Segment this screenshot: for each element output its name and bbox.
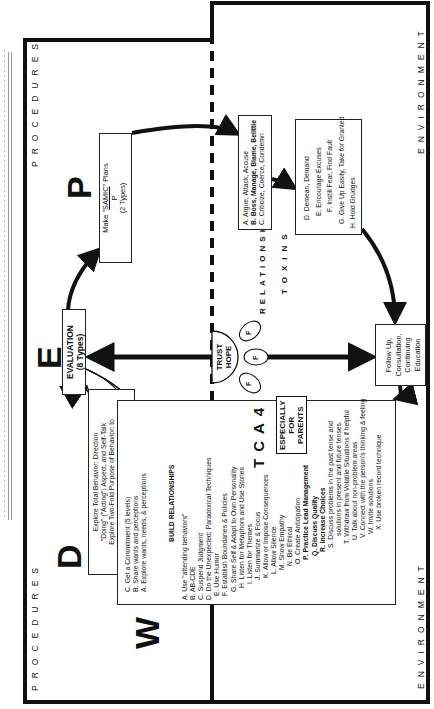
toxin-a: A. Argue, Attack, Accuse (242, 120, 250, 225)
toxins-box-1: A. Argue, Attack, Accuse B. Boss, Manage… (238, 115, 272, 230)
rel-item-b: B. AB-CDE (189, 399, 197, 600)
act-number-4: 4 (250, 408, 267, 416)
parents-line-2: FOR (287, 401, 296, 451)
rel-item-r: R. Increase Choices (319, 399, 327, 600)
parents-line-3: PARENTS (296, 401, 305, 451)
plans-line3: (2 Types) (119, 134, 128, 262)
followup-line-4: Education (413, 325, 423, 385)
evaluation-subtitle: (8 Types) (75, 310, 85, 394)
especially-for-parents-badge: ESPECIALLY FOR PARENTS (276, 397, 307, 455)
rel-item-v: V. Connect with the person's thinking & … (359, 399, 367, 600)
direction-line-1: Explore Total Behavior: Direction (92, 390, 100, 574)
procedures-label-top: PROCEDURES (30, 37, 40, 167)
toxin-h: H. Hold Grudges (347, 124, 359, 230)
wants-box: C. Get a Commitment (5 levels) B. Share … (117, 400, 396, 605)
rel-item-w: W. Invite solutions (367, 399, 375, 600)
environment-label-bottom: ENVIRONMENT (416, 560, 426, 689)
act-letter-t: T (250, 459, 267, 468)
letter-e: E (32, 346, 66, 369)
rel-item-g: G. Share Self & Adapt to Own Personality (230, 399, 238, 600)
wants-item-b: B. Share wants and perceptions (132, 473, 140, 592)
wants-item-a: A. Explore wants, needs, & perceptions (140, 473, 148, 592)
petal-f-1: F (245, 331, 252, 335)
toxin-b: B. Boss, Manage, Blame, Belittle (250, 120, 258, 225)
rel-item-q: Q. Discuss Quality (311, 399, 319, 600)
toxin-d: D. Demean, Demand (301, 124, 313, 230)
letter-p: P (62, 176, 96, 199)
wants-item-c: C. Get a Commitment (5 levels) (124, 473, 132, 592)
petal-f-2: F (252, 356, 259, 360)
procedures-text-2: PROCEDURES (30, 561, 40, 691)
rel-item-a: A. Use "attending behaviors" (181, 399, 189, 600)
letter-d: D (52, 544, 86, 569)
parents-line-1: ESPECIALLY (278, 401, 287, 451)
rel-item-d: D. Do the Unexpected; Paradoxical Techni… (205, 399, 213, 600)
rel-item-s: S. Discuss problems in the past tense an… (327, 399, 335, 600)
followup-line-3: Continuing (403, 325, 413, 385)
followup-line-2: Consultation, (394, 325, 404, 385)
rel-item-x: X. Use broken record technique (375, 399, 383, 600)
rel-item-f: F. Establish Boundaries & Policies (221, 399, 229, 600)
direction-line-3: Explore Two-Fold Purpose of Behavior: to (108, 390, 116, 574)
wants-top-list: C. Get a Commitment (5 levels) B. Share … (124, 473, 148, 592)
toxin-f: F. Instill Fear, Find Fault (324, 124, 336, 230)
evaluation-title: EVALUATION (65, 310, 75, 394)
letter-w: W (130, 617, 164, 649)
build-relationships-label: BUILD RELATIONSHIPS (168, 463, 176, 544)
procedures-label-bottom: PROCEDURES (30, 561, 40, 691)
four-act-badge: T C A 4 (250, 408, 267, 468)
hope-text: HOPE (225, 338, 234, 376)
rel-item-e: E. Use Humor (213, 399, 221, 600)
plans-box: Make "SAMIC" Plans P (2 Types) (99, 133, 132, 263)
toxin-c: C. Criticize, Coerce, Condemn (258, 120, 266, 225)
act-letter-c: C (250, 441, 267, 452)
toxins-box-2: D. Demean, Demand E. Encourage Excuses F… (295, 119, 362, 235)
petal-f-3: F (245, 382, 252, 386)
plans-line1-suffix: " Plans (101, 163, 110, 186)
environment-text-2: ENVIRONMENT (416, 560, 426, 689)
trust-hope-label: TRUST HOPE (216, 338, 233, 376)
procedures-text: PROCEDURES (30, 37, 40, 167)
followup-box: Follow Up, Consultation, Continuing Educ… (375, 324, 426, 386)
toxin-g: G. Give Up Easily, Take for Granted (336, 124, 348, 230)
wdep-diagram: TRUST HOPE F F F PROCEDURES PROCEDURES E… (0, 0, 434, 709)
followup-line-1: Follow Up, (384, 325, 394, 385)
samic-text: SAMIC (101, 187, 110, 210)
direction-line-2: "Doing" ("Acting") Aspect, and Self-Talk (100, 390, 108, 574)
toxin-e: E. Encourage Excuses (313, 124, 325, 230)
environment-label-top: ENVIRONMENT (416, 25, 426, 154)
act-letter-a: A (250, 423, 267, 434)
evaluation-box: EVALUATION (8 Types) (62, 309, 86, 395)
environment-text: ENVIRONMENT (416, 25, 426, 154)
plans-line1-prefix: Make " (101, 210, 110, 233)
toxins-label: TOXINS (280, 228, 289, 294)
rel-item-s-cont: solutions in present and future tenses. (335, 399, 343, 600)
rel-item-u: U. Talk about non-problem areas (351, 399, 359, 600)
rel-item-c: C. Suspend Judgment (197, 399, 205, 600)
rel-item-h: H. Listen for Metaphors and Use Stories (238, 399, 246, 600)
rel-item-t: T. Withdraw from Volatile Situations if … (343, 399, 351, 600)
